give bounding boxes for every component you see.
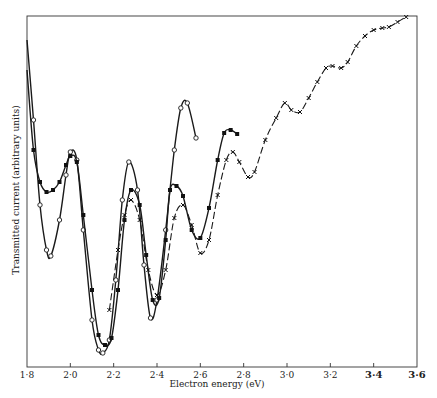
open-circle-marker xyxy=(142,263,146,267)
plot-frame xyxy=(27,16,417,367)
filled-square-marker xyxy=(90,288,94,292)
x-tick-label: 3·2 xyxy=(323,370,337,380)
open-circle-marker xyxy=(64,173,68,177)
open-circle-marker xyxy=(90,318,94,322)
cross-marker xyxy=(207,238,211,242)
cross-marker xyxy=(346,60,350,64)
filled-square-marker xyxy=(51,188,55,192)
cross-marker xyxy=(363,34,367,38)
series-line xyxy=(109,17,406,310)
filled-square-marker xyxy=(75,160,79,164)
open-circle-marker xyxy=(68,150,72,154)
filled-square-marker xyxy=(151,298,155,302)
filled-square-marker xyxy=(175,184,179,188)
filled-square-marker xyxy=(81,213,85,217)
filled-square-marker xyxy=(38,180,42,184)
cross-marker xyxy=(315,80,319,84)
open-circle-marker xyxy=(31,118,35,122)
filled-square-marker xyxy=(103,343,107,347)
cross-marker xyxy=(198,251,202,255)
series-line xyxy=(27,40,196,354)
open-circle-marker xyxy=(44,248,48,252)
open-circle-marker xyxy=(179,106,183,110)
filled-square-marker xyxy=(58,180,62,184)
open-circle-marker xyxy=(96,348,100,352)
cross-marker xyxy=(253,170,257,174)
filled-square-marker xyxy=(198,236,202,240)
cross-marker xyxy=(387,25,391,29)
open-circle-marker xyxy=(101,351,105,355)
open-circle-marker xyxy=(49,254,53,258)
open-circle-marker xyxy=(135,188,139,192)
filled-square-marker xyxy=(164,238,168,242)
x-tick-label: 2·0 xyxy=(63,370,78,380)
open-circle-marker xyxy=(38,203,42,207)
cross-marker xyxy=(289,108,293,112)
filled-square-marker xyxy=(32,148,36,152)
series-crosses xyxy=(107,15,408,312)
x-tick-label: 2·2 xyxy=(107,370,121,380)
filled-square-marker xyxy=(129,188,133,192)
open-circle-marker xyxy=(148,316,152,320)
series-open-circles xyxy=(27,40,198,355)
filled-square-marker xyxy=(138,203,142,207)
filled-square-marker xyxy=(222,131,226,135)
filled-square-marker xyxy=(235,132,239,136)
x-tick-label: 3·6 xyxy=(408,369,425,380)
cross-marker xyxy=(246,175,250,179)
series-line xyxy=(27,70,237,345)
filled-square-marker xyxy=(229,128,233,132)
cross-marker xyxy=(237,160,241,164)
filled-square-marker xyxy=(110,336,114,340)
filled-square-marker xyxy=(181,194,185,198)
open-circle-marker xyxy=(120,198,124,202)
cross-marker xyxy=(274,116,278,120)
x-tick-label: 1·8 xyxy=(20,370,35,380)
filled-square-marker xyxy=(216,158,220,162)
data-series xyxy=(27,15,408,355)
filled-square-marker xyxy=(45,190,49,194)
cross-marker xyxy=(181,203,185,207)
cross-marker xyxy=(396,20,400,24)
filled-square-marker xyxy=(64,163,68,167)
x-tick-label: 3·0 xyxy=(280,370,295,380)
filled-square-marker xyxy=(97,333,101,337)
cross-marker xyxy=(283,101,287,105)
cross-marker xyxy=(324,66,328,70)
filled-square-marker xyxy=(168,188,172,192)
open-circle-marker xyxy=(57,218,61,222)
x-axis-label: Electron energy (eV) xyxy=(169,379,264,389)
filled-square-marker xyxy=(207,206,211,210)
filled-square-marker xyxy=(68,154,72,158)
open-circle-marker xyxy=(127,160,131,164)
x-tick-label: 3·4 xyxy=(365,369,382,380)
open-circle-marker xyxy=(172,148,176,152)
y-axis-label: Transmitted current (arbitrary units) xyxy=(11,105,21,274)
series-filled-squares xyxy=(27,70,239,347)
cross-marker xyxy=(307,96,311,100)
filled-square-marker xyxy=(116,288,120,292)
cross-marker xyxy=(354,44,358,48)
chart-canvas: 1·82·02·22·42·62·83·03·23·43·6 Electron … xyxy=(0,0,437,398)
cross-marker xyxy=(298,110,302,114)
open-circle-marker xyxy=(185,101,189,105)
x-axis-ticks: 1·82·02·22·42·62·83·03·23·43·6 xyxy=(20,363,426,380)
open-circle-marker xyxy=(194,136,198,140)
x-tick-label: 2·4 xyxy=(150,370,165,380)
